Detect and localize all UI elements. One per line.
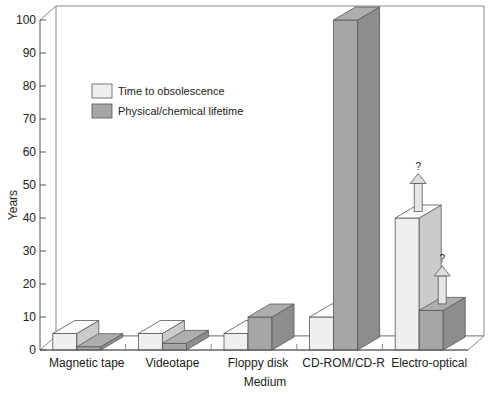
bar-front	[224, 334, 248, 351]
bar-front	[248, 317, 272, 350]
y-tick-label: 60	[23, 145, 37, 159]
x-tick-label: Magnetic tape	[49, 356, 125, 370]
bar-front	[419, 310, 443, 350]
bar-side	[358, 7, 380, 350]
bar-front	[138, 334, 162, 351]
y-tick-label: 100	[16, 13, 36, 27]
bar-front	[162, 343, 186, 350]
y-tick-label: 70	[23, 112, 37, 126]
legend-swatch	[92, 84, 112, 98]
x-tick-label: Electro-optical	[391, 356, 467, 370]
legend-label: Physical/chemical lifetime	[118, 105, 243, 117]
y-tick-label: 90	[23, 46, 37, 60]
x-tick-label: Floppy disk	[228, 356, 290, 370]
bar-front	[395, 218, 419, 350]
legend-label: Time to obsolescence	[118, 85, 225, 97]
bar-front	[53, 334, 77, 351]
question-mark: ?	[415, 161, 421, 172]
chart-container: ?? 0102030405060708090100Magnetic tapeVi…	[0, 0, 494, 395]
y-axis-label: Years	[6, 190, 20, 220]
y-tick-label: 50	[23, 178, 37, 192]
y-tick-label: 0	[29, 343, 36, 357]
bar-chart-3d: ?? 0102030405060708090100Magnetic tapeVi…	[0, 0, 494, 395]
y-tick-label: 10	[23, 310, 37, 324]
bar-front	[334, 20, 358, 350]
bar-front	[310, 317, 334, 350]
x-axis-label: Medium	[244, 375, 287, 389]
y-tick-label: 30	[23, 244, 37, 258]
x-tick-label: Videotape	[145, 356, 199, 370]
x-tick-label: CD-ROM/CD-R	[302, 356, 385, 370]
arrow-shaft	[414, 184, 422, 212]
question-mark: ?	[439, 253, 445, 264]
y-tick-label: 80	[23, 79, 37, 93]
y-tick-label: 20	[23, 277, 37, 291]
y-tick-label: 40	[23, 211, 37, 225]
top-edge	[40, 6, 56, 20]
legend-swatch	[92, 104, 112, 118]
arrow-shaft	[438, 276, 446, 304]
